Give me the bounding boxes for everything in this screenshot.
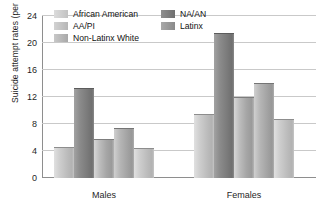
y-tick-label: 20 xyxy=(27,39,37,48)
y-tick-label: 12 xyxy=(27,93,37,102)
legend-label: Non-Latinx White xyxy=(73,33,139,43)
legend-item-latinx: Latinx xyxy=(161,21,206,31)
legend-label: African American xyxy=(73,9,138,19)
x-category-label: Males xyxy=(92,190,116,200)
x-category-label: Females xyxy=(227,190,262,200)
bar xyxy=(234,97,254,178)
y-tick-label: 24 xyxy=(27,12,37,21)
y-tick-label: 0 xyxy=(32,174,37,183)
legend-swatch-icon xyxy=(161,10,175,18)
bar xyxy=(94,139,114,178)
legend-item-african-american: African American xyxy=(54,9,139,19)
legend-item-na-an: NA/AN xyxy=(161,9,206,19)
bar xyxy=(194,114,214,178)
y-axis-title: Suicide attempt rates (per 100) xyxy=(10,0,20,118)
legend-swatch-icon xyxy=(161,22,175,30)
legend-item-aa-pi: AA/PI xyxy=(54,21,139,31)
bar xyxy=(74,88,94,178)
bar-group-females: Females xyxy=(194,16,294,178)
bar xyxy=(274,119,294,178)
legend-swatch-icon xyxy=(54,34,68,42)
y-tick-label: 8 xyxy=(32,120,37,129)
bar xyxy=(134,148,154,178)
bar xyxy=(54,147,74,178)
bar-chart: Suicide attempt rates (per 100) African … xyxy=(0,0,323,213)
y-tick-label: 16 xyxy=(27,66,37,75)
legend-swatch-icon xyxy=(54,22,68,30)
chart-legend: African American NA/AN AA/PI Latinx Non-… xyxy=(54,9,206,43)
bar xyxy=(254,83,274,179)
bar xyxy=(114,128,134,178)
bar xyxy=(214,33,234,178)
legend-label: AA/PI xyxy=(73,21,95,31)
y-axis-line xyxy=(42,16,43,178)
legend-swatch-icon xyxy=(54,10,68,18)
legend-label: Latinx xyxy=(180,21,203,31)
y-tick-label: 4 xyxy=(32,147,37,156)
legend-item-non-latinx-white: Non-Latinx White xyxy=(54,33,139,43)
legend-label: NA/AN xyxy=(180,9,206,19)
